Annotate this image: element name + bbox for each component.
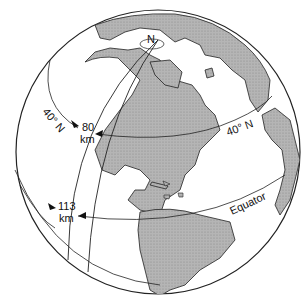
dist-40n-unit: km bbox=[80, 133, 95, 145]
south-america bbox=[138, 209, 235, 296]
caribbean-island bbox=[178, 193, 183, 197]
dist-40n-value: 80 bbox=[82, 121, 94, 133]
dist-eq-unit: km bbox=[59, 212, 74, 224]
arctic-island-small bbox=[205, 68, 214, 78]
caribbean-island bbox=[164, 195, 170, 199]
globe-diagram: N 40° N 40° N 80 km 113 km Equator bbox=[0, 0, 307, 298]
dist-eq-value: 113 bbox=[58, 200, 76, 212]
pole-label: N bbox=[147, 33, 155, 45]
